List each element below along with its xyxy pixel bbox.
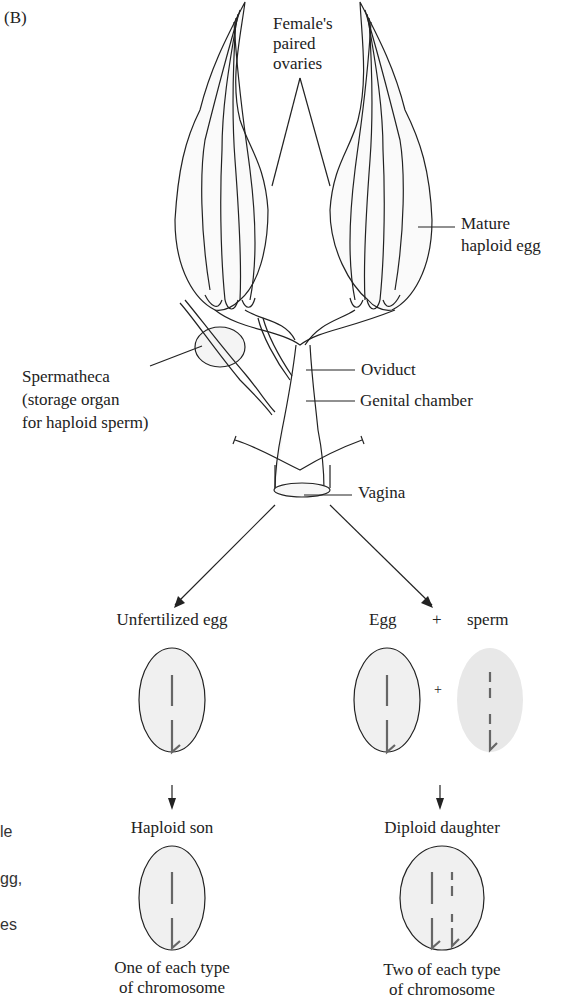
caption-haploid-line2: of chromosome	[82, 978, 262, 998]
label-haploid-son: Haploid son	[82, 818, 262, 838]
label-unfertilized-egg: Unfertilized egg	[82, 610, 262, 630]
caption-diploid-line1: Two of each type	[352, 960, 532, 980]
label-ovaries-line3: ovaries	[273, 54, 322, 74]
label-spermatheca-line1: Spermatheca	[22, 367, 110, 387]
left-ovary-drawing	[175, 2, 268, 310]
sperm-cell	[457, 648, 523, 752]
label-spermatheca-line3: for haploid sperm)	[22, 413, 149, 433]
cut-off-text-1: le	[0, 823, 12, 841]
label-mature-egg-line2: haploid egg	[461, 236, 541, 256]
label-plus-middle: +	[434, 680, 442, 700]
right-ovary-drawing	[330, 2, 432, 310]
label-spermatheca-line2: (storage organ	[22, 390, 119, 410]
label-genital-chamber: Genital chamber	[360, 391, 473, 411]
label-ovaries-line1: Female's	[273, 14, 333, 34]
unfertilized-egg-cell	[139, 648, 205, 752]
cut-off-text-2: gg,	[0, 870, 22, 888]
label-ovaries-line2: paired	[273, 34, 315, 54]
haplodiploidy-diagram	[0, 0, 584, 1002]
haploid-son-cell	[139, 846, 205, 950]
label-sperm: sperm	[467, 610, 509, 630]
label-mature-egg-line1: Mature	[461, 214, 510, 234]
label-oviduct: Oviduct	[361, 360, 416, 380]
spermatheca-drawing	[195, 327, 245, 367]
label-vagina: Vagina	[358, 483, 405, 503]
cut-off-text-3: es	[0, 916, 17, 934]
label-diploid-daughter: Diploid daughter	[352, 818, 532, 838]
label-plus-top: +	[432, 610, 442, 630]
label-egg: Egg	[369, 610, 396, 630]
caption-haploid-line1: One of each type	[82, 958, 262, 978]
caption-diploid-line2: of chromosome	[352, 980, 532, 1000]
panel-label: (B)	[4, 8, 27, 28]
diploid-daughter-cell	[400, 846, 484, 950]
egg-cell	[354, 648, 420, 752]
